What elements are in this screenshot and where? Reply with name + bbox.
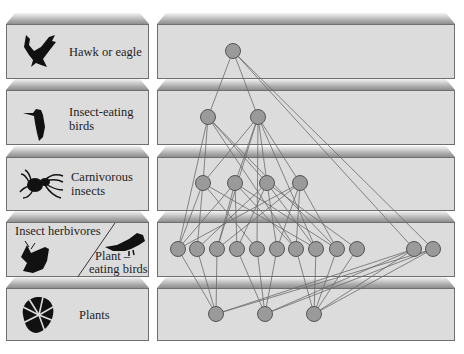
node-carn-insects xyxy=(228,176,243,191)
food-web-edge xyxy=(265,249,277,314)
node-herbivores xyxy=(230,242,245,257)
node-herbivores xyxy=(330,242,345,257)
food-web-edge xyxy=(314,249,414,314)
node-herbivores xyxy=(171,242,186,257)
food-web-edge xyxy=(216,249,414,314)
food-web-edge xyxy=(178,183,300,249)
food-web-edge xyxy=(257,117,258,249)
food-web-edge xyxy=(265,249,433,314)
node-hawk xyxy=(226,44,241,59)
food-web-edge xyxy=(233,51,258,117)
food-web-edge xyxy=(235,183,337,249)
food-web-edge xyxy=(178,249,216,314)
node-insect-birds xyxy=(251,110,266,125)
node-carn-insects xyxy=(293,176,308,191)
node-plant-birds xyxy=(407,242,422,257)
food-web-edge xyxy=(237,183,267,249)
food-web-edge xyxy=(233,51,433,249)
food-web-edge xyxy=(265,249,414,314)
food-web-edge xyxy=(267,183,277,249)
food-web-edge xyxy=(178,183,235,249)
food-web-edge xyxy=(216,249,217,314)
node-plants xyxy=(258,307,273,322)
food-web-network xyxy=(0,0,464,354)
food-web-nodes xyxy=(171,44,441,322)
node-herbivores xyxy=(250,242,265,257)
food-web-edge xyxy=(208,51,233,117)
food-web-edge xyxy=(314,249,433,314)
node-plants xyxy=(307,307,322,322)
node-plants xyxy=(209,307,224,322)
food-web-edge xyxy=(197,183,203,249)
node-herbivores xyxy=(190,242,205,257)
node-carn-insects xyxy=(260,176,275,191)
node-herbivores xyxy=(210,242,225,257)
food-web-edge xyxy=(258,117,300,183)
food-web-edge xyxy=(235,183,296,249)
food-web-edge xyxy=(203,117,258,183)
node-herbivores xyxy=(350,242,365,257)
node-insect-birds xyxy=(201,110,216,125)
node-herbivores xyxy=(309,242,324,257)
node-herbivores xyxy=(270,242,285,257)
node-herbivores xyxy=(289,242,304,257)
node-plant-birds xyxy=(426,242,441,257)
food-web-edge xyxy=(216,249,433,314)
food-web-edge xyxy=(296,249,314,314)
food-web-edge xyxy=(235,183,237,249)
food-web-edge xyxy=(197,249,216,314)
node-carn-insects xyxy=(196,176,211,191)
food-web-edge xyxy=(233,51,414,249)
food-web-edge xyxy=(314,249,357,314)
food-web-edge xyxy=(300,183,337,249)
